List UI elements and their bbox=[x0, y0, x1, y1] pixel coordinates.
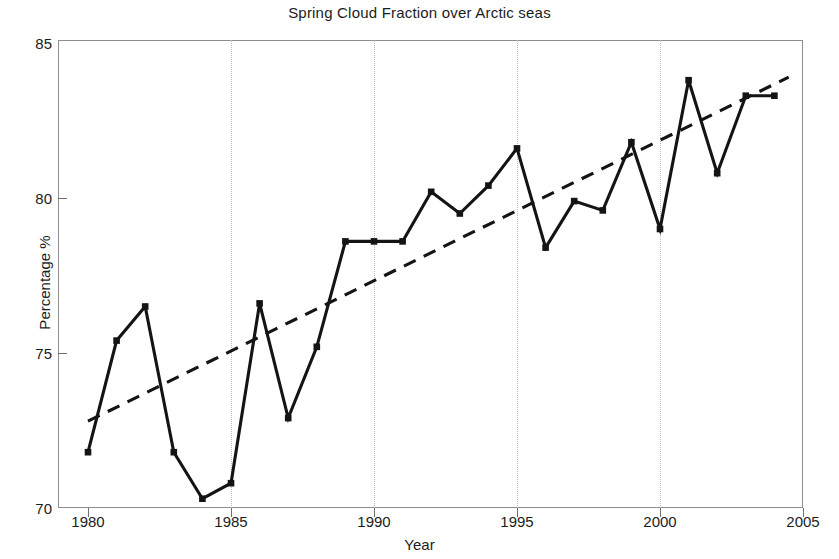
data-point-2003 bbox=[743, 92, 750, 99]
data-point-1984 bbox=[199, 495, 206, 502]
plot-canvas bbox=[0, 0, 839, 559]
data-point-2001 bbox=[685, 77, 692, 84]
data-point-1982 bbox=[142, 303, 149, 310]
y-axis-title: Percentage % bbox=[36, 203, 53, 363]
data-point-1999 bbox=[628, 139, 635, 146]
chart-figure: Spring Cloud Fraction over Arctic seas 1… bbox=[0, 0, 839, 559]
data-point-1981 bbox=[113, 337, 120, 344]
data-point-1990 bbox=[371, 238, 378, 245]
data-point-1995 bbox=[514, 145, 521, 152]
data-point-1994 bbox=[485, 182, 492, 189]
data-point-1985 bbox=[228, 480, 235, 487]
data-point-1980 bbox=[85, 449, 92, 456]
data-point-2000 bbox=[657, 226, 664, 233]
x-axis-title: Year bbox=[0, 536, 839, 553]
data-point-1997 bbox=[571, 198, 578, 205]
data-point-1989 bbox=[342, 238, 349, 245]
data-point-2002 bbox=[714, 170, 721, 177]
data-point-1998 bbox=[600, 207, 607, 214]
data-point-1988 bbox=[314, 344, 321, 351]
data-point-1996 bbox=[542, 244, 549, 251]
data-point-2004 bbox=[771, 92, 778, 99]
data-point-1986 bbox=[256, 300, 263, 307]
trend-line bbox=[88, 77, 789, 421]
data-point-1987 bbox=[285, 415, 292, 422]
data-point-1993 bbox=[457, 210, 464, 217]
data-point-1991 bbox=[399, 238, 406, 245]
data-point-1992 bbox=[428, 189, 435, 196]
data-point-markers bbox=[85, 77, 778, 502]
data-point-1983 bbox=[171, 449, 178, 456]
series-line bbox=[88, 80, 774, 499]
